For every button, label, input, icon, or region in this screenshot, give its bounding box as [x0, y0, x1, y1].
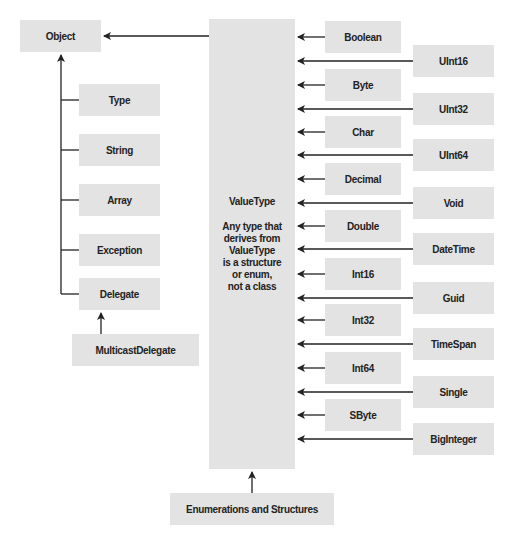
single-node: Single — [413, 376, 494, 408]
enums-structs-node: Enumerations and Structures — [170, 493, 334, 525]
object-label: Object — [46, 31, 75, 42]
datetime-node: DateTime — [413, 233, 494, 265]
double-label: Double — [347, 221, 379, 232]
char-node: Char — [325, 116, 401, 148]
delegate-label: Delegate — [100, 289, 139, 300]
int32-label: Int32 — [352, 315, 374, 326]
int32-node: Int32 — [325, 304, 401, 336]
uint64-node: UInt64 — [413, 139, 494, 171]
guid-node: Guid — [413, 282, 494, 314]
type-label: Type — [109, 95, 130, 106]
int16-label: Int16 — [352, 269, 374, 280]
array-node: Array — [79, 184, 160, 216]
uint32-node: UInt32 — [413, 93, 494, 125]
byte-label: Byte — [353, 80, 373, 91]
biginteger-node: BigInteger — [413, 423, 494, 455]
string-label: String — [106, 145, 133, 156]
string-node: String — [79, 134, 160, 166]
datetime-label: DateTime — [432, 244, 474, 255]
decimal-node: Decimal — [325, 163, 401, 195]
uint16-node: UInt16 — [413, 45, 494, 77]
exception-node: Exception — [79, 234, 160, 266]
array-label: Array — [107, 195, 132, 206]
void-label: Void — [444, 198, 464, 209]
sbyte-node: SByte — [325, 399, 401, 431]
int16-node: Int16 — [325, 258, 401, 290]
value-type-description: Any type that derives from ValueType is … — [222, 221, 281, 293]
multicast-delegate-label: MulticastDelegate — [96, 345, 176, 356]
value-type-title: ValueType — [229, 196, 275, 207]
biginteger-label: BigInteger — [430, 434, 476, 445]
double-node: Double — [325, 210, 401, 242]
boolean-label: Boolean — [344, 32, 381, 43]
uint64-label: UInt64 — [439, 150, 468, 161]
int64-node: Int64 — [325, 352, 401, 384]
boolean-node: Boolean — [325, 21, 401, 53]
value-type-node: ValueType Any type that derives from Val… — [209, 19, 295, 469]
int64-label: Int64 — [352, 363, 374, 374]
multicast-delegate-node: MulticastDelegate — [72, 334, 199, 366]
byte-node: Byte — [325, 69, 401, 101]
void-node: Void — [413, 187, 494, 219]
timespan-node: TimeSpan — [413, 328, 494, 360]
enums-structs-label: Enumerations and Structures — [186, 504, 318, 515]
type-node: Type — [79, 84, 160, 116]
char-label: Char — [352, 127, 374, 138]
uint16-label: UInt16 — [439, 56, 468, 67]
object-node: Object — [20, 20, 101, 52]
single-label: Single — [439, 387, 467, 398]
uint32-label: UInt32 — [439, 104, 468, 115]
exception-label: Exception — [97, 245, 142, 256]
sbyte-label: SByte — [350, 410, 377, 421]
decimal-label: Decimal — [345, 174, 381, 185]
timespan-label: TimeSpan — [431, 339, 476, 350]
delegate-node: Delegate — [79, 278, 160, 310]
guid-label: Guid — [443, 293, 465, 304]
